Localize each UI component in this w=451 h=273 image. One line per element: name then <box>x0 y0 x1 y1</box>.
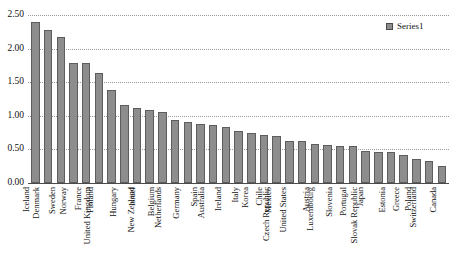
y-axis-tick-label: 2.00 <box>0 44 24 54</box>
bar-slot <box>54 15 67 183</box>
bar-slot <box>258 15 271 183</box>
bar-slot <box>347 15 360 183</box>
x-axis-tick-label: Italy <box>231 187 240 203</box>
bar-series-series1 <box>28 15 449 183</box>
legend-label-series1: Series1 <box>397 22 424 31</box>
y-axis-tick-label: 1.50 <box>0 77 24 87</box>
x-axis-tick-label: Czech Republic <box>262 187 271 241</box>
x-label-slot: Finland <box>93 185 106 273</box>
bar <box>145 110 154 183</box>
bar <box>95 73 104 183</box>
bar-slot <box>436 15 449 183</box>
bar <box>44 30 53 183</box>
bar-slot <box>397 15 410 183</box>
bar <box>107 90 116 183</box>
bar <box>272 136 281 183</box>
y-axis-tick-label: 1.00 <box>0 111 24 121</box>
bar-slot <box>334 15 347 183</box>
x-axis-tick-label: Portugal <box>339 187 348 216</box>
bar-slot <box>207 15 220 183</box>
x-axis-category-labels: IcelandDenmarkSwedenNorwayFranceFinlandU… <box>28 185 449 273</box>
bar <box>438 166 447 183</box>
bar-slot <box>156 15 169 183</box>
bar <box>260 135 269 183</box>
bar-slot <box>93 15 106 183</box>
bar-slot <box>321 15 334 183</box>
bar <box>425 161 434 183</box>
y-axis-tick-labels: 2.502.001.501.000.500.00 <box>0 0 26 273</box>
bar-slot <box>181 15 194 183</box>
bar <box>387 152 396 183</box>
bar-chart: 2.502.001.501.000.500.00 IcelandDenmarkS… <box>0 0 451 273</box>
x-axis-tick-label: Canada <box>429 187 438 213</box>
x-axis-tick-label: Iceland <box>23 187 32 212</box>
bar-slot <box>372 15 385 183</box>
x-axis-line <box>28 183 449 184</box>
bar <box>247 133 256 183</box>
bar-slot <box>80 15 93 183</box>
bar <box>209 125 218 183</box>
x-axis-tick-label: United States <box>279 187 288 233</box>
bar <box>196 124 205 183</box>
bar-slot <box>143 15 156 183</box>
bar <box>171 120 180 183</box>
bar <box>412 159 421 183</box>
bar <box>399 155 408 183</box>
bar-slot <box>29 15 42 183</box>
x-axis-tick-label: Korea <box>241 187 250 208</box>
x-axis-tick-label: Netherlands <box>155 187 164 228</box>
bar <box>298 141 307 183</box>
bar <box>311 144 320 183</box>
x-axis-tick-label: Sweden <box>47 187 56 214</box>
x-axis-tick-label: Slovak Republic <box>350 187 359 243</box>
plot-area <box>28 15 449 183</box>
bar-slot <box>42 15 55 183</box>
bar <box>31 22 40 183</box>
x-axis-tick-label: Greece <box>392 187 401 211</box>
bar-slot <box>423 15 436 183</box>
x-label-slot: Japan <box>359 185 372 273</box>
bar <box>323 145 332 183</box>
x-axis-tick-label: Germany <box>172 187 181 219</box>
bar <box>69 63 78 183</box>
bar <box>184 122 193 183</box>
bar <box>120 105 129 183</box>
x-label-slot: Canada <box>436 185 449 273</box>
bar <box>349 146 358 183</box>
bar <box>82 63 91 183</box>
x-axis-tick-label: Denmark <box>32 187 41 219</box>
bar-slot <box>385 15 398 183</box>
bar <box>234 131 243 183</box>
bar-slot <box>359 15 372 183</box>
x-axis-tick-label: Australia <box>198 187 207 218</box>
bar-slot <box>308 15 321 183</box>
x-axis-tick-label: Ireland <box>214 187 223 211</box>
bar-slot <box>270 15 283 183</box>
bar <box>374 152 383 183</box>
bar-slot <box>118 15 131 183</box>
y-axis-tick-label: 0.00 <box>0 178 24 188</box>
x-axis-tick-label: Hungary <box>109 187 118 217</box>
x-axis-tick-label: Norway <box>60 187 69 214</box>
x-axis-tick-label: Estonia <box>378 187 387 213</box>
bar-slot <box>105 15 118 183</box>
bar <box>361 151 370 183</box>
legend-swatch-series1 <box>386 23 393 30</box>
x-axis-tick-label: Luxembourg <box>306 187 315 231</box>
y-axis-tick-label: 2.50 <box>0 10 24 20</box>
bar-slot <box>283 15 296 183</box>
x-axis-tick-label: United Kingdom <box>83 187 92 244</box>
bar <box>222 127 231 183</box>
bar-slot <box>232 15 245 183</box>
bar-slot <box>131 15 144 183</box>
bar-slot <box>169 15 182 183</box>
bar <box>336 146 345 183</box>
bar-slot <box>67 15 80 183</box>
bar <box>285 141 294 183</box>
bar <box>57 37 66 183</box>
bar-slot <box>245 15 258 183</box>
bar-slot <box>296 15 309 183</box>
bar <box>133 108 142 183</box>
legend: Series1 <box>386 22 424 31</box>
x-axis-tick-label: Switzerland <box>409 187 418 228</box>
